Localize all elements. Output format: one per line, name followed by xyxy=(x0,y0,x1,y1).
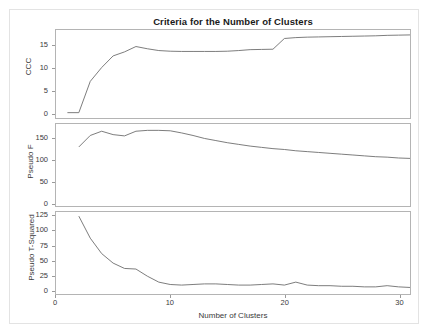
panel-ccc xyxy=(55,29,411,119)
x-tick-label: 0 xyxy=(45,298,65,307)
page-title: Criteria for the Number of Clusters xyxy=(55,16,411,27)
chart-figure: Criteria for the Number of Clusters CCC … xyxy=(0,0,428,335)
y-axis-title-ccc: CCC xyxy=(24,37,33,97)
x-tick-label: 10 xyxy=(160,298,180,307)
x-tick-label: 20 xyxy=(275,298,295,307)
x-tick-labels: 0102030 xyxy=(0,298,428,310)
y-axis-title-pseudo-t-squared: Pseudo T-Squared xyxy=(27,205,36,291)
y-axis-title-pseudo-f: Pseudo F xyxy=(26,134,35,190)
x-tick-mark xyxy=(55,295,56,298)
x-tick-mark xyxy=(285,295,286,298)
pseudo-t-squared-line-series xyxy=(56,212,410,294)
x-axis-title: Number of Clusters xyxy=(55,311,411,320)
x-tick-label: 30 xyxy=(390,298,410,307)
x-tick-mark xyxy=(400,295,401,298)
pseudo-f-line-series xyxy=(56,124,410,206)
ccc-line-series xyxy=(56,30,410,118)
panel-pseudo-f xyxy=(55,123,411,207)
panel-pseudo-t-squared xyxy=(55,211,411,295)
x-tick-mark xyxy=(170,295,171,298)
